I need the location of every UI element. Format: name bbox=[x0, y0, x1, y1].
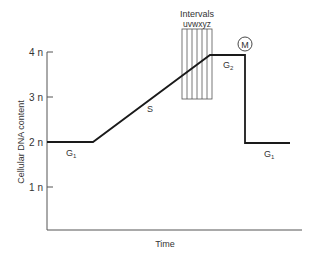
tick-label-4n: 4 n bbox=[29, 47, 43, 58]
intervals-title: Intervals bbox=[180, 9, 215, 19]
diagram-canvas: 4 n 3 n 2 n 1 n Cellular DNA content Tim… bbox=[0, 0, 318, 253]
y-axis-label: Cellular DNA content bbox=[16, 100, 26, 184]
phase-label-s: S bbox=[147, 104, 153, 114]
phase-label-m: M bbox=[241, 40, 249, 50]
axes bbox=[47, 52, 302, 230]
tick-label-1n: 1 n bbox=[29, 182, 43, 193]
tick-label-2n: 2 n bbox=[29, 137, 43, 148]
intervals-letters: uvwxyz bbox=[183, 19, 211, 29]
x-axis-label: Time bbox=[155, 239, 175, 249]
phase-label-g2: G2 bbox=[223, 60, 234, 71]
dna-content-diagram: 4 n 3 n 2 n 1 n Cellular DNA content Tim… bbox=[0, 0, 318, 253]
phase-label-g1-first: G1 bbox=[66, 148, 77, 159]
dna-content-line bbox=[47, 55, 290, 143]
tick-label-3n: 3 n bbox=[29, 92, 43, 103]
phase-label-g1-second: G1 bbox=[264, 149, 275, 160]
